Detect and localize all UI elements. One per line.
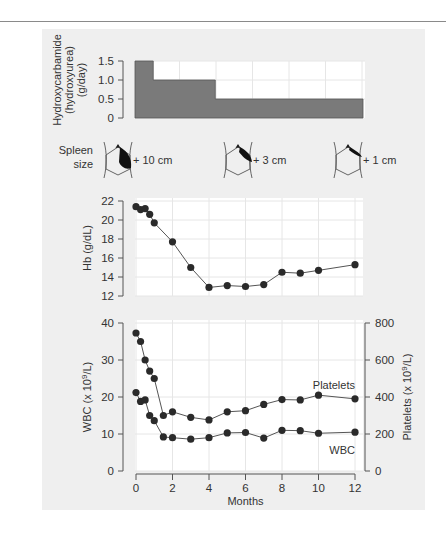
hb-data-point — [224, 282, 231, 289]
dose-y-tick-label: 1.0 — [98, 74, 114, 86]
hb-y-tick-label: 22 — [101, 195, 114, 207]
platelets-data-point — [315, 392, 322, 399]
spleen-size-value: + 1 cm — [363, 154, 396, 166]
spleen-size-value: + 3 cm — [253, 154, 286, 166]
wbc-data-point — [151, 417, 158, 424]
months-x-tick-label: 0 — [133, 482, 139, 494]
hb-data-point — [260, 281, 267, 288]
hb-data-point — [151, 219, 158, 226]
platelets-y-tick-label: 600 — [375, 354, 394, 366]
platelets-data-point — [297, 396, 304, 403]
wbc-data-point — [260, 434, 267, 441]
wbc-data-point — [315, 430, 322, 437]
hb-data-point — [297, 270, 304, 277]
wbc-data-point — [242, 429, 249, 436]
hb-y-tick-label: 20 — [101, 214, 114, 226]
months-x-tick-label: 12 — [349, 482, 362, 494]
months-x-tick-label: 4 — [206, 482, 213, 494]
platelets-data-point — [160, 412, 167, 419]
dose-y-tick-label: 0.5 — [98, 93, 114, 105]
months-x-tick-label: 6 — [242, 482, 248, 494]
platelets-data-point — [151, 375, 158, 382]
wbc-data-point — [169, 434, 176, 441]
spleen-diagram-icon — [104, 142, 132, 178]
hb-y-tick-label: 12 — [101, 290, 114, 302]
hb-plot-area — [135, 198, 363, 296]
hb-data-point — [205, 284, 212, 291]
platelets-y-tick-label: 800 — [375, 317, 394, 329]
wbc-data-point — [142, 396, 149, 403]
dose-y-tick-label: 0 — [108, 112, 114, 124]
platelets-series-label: Platelets — [313, 379, 356, 391]
wbc-data-point — [160, 433, 167, 440]
months-x-tick-label: 2 — [169, 482, 175, 494]
spleen-diagram-icon — [334, 142, 362, 178]
hb-data-point — [142, 205, 149, 212]
platelets-data-point — [187, 414, 194, 421]
platelets-data-point — [242, 407, 249, 414]
platelets-data-point — [260, 401, 267, 408]
dose-y-axis-title: Hydroxycarbamide — [51, 34, 63, 126]
wbc-y-tick-label: 40 — [101, 317, 114, 329]
platelets-data-point — [351, 395, 358, 402]
wbc-data-point — [187, 436, 194, 443]
figure-canvas: 00.51.01.5Hydroxycarbamide(hydroxyurea)(… — [0, 0, 446, 533]
hb-data-point — [242, 283, 249, 290]
hb-y-tick-label: 14 — [101, 271, 114, 283]
wbc-y-tick-label: 20 — [101, 391, 114, 403]
spleen-size-value: + 10 cm — [133, 154, 172, 166]
months-x-axis-title: Months — [227, 495, 264, 507]
wbc-data-point — [224, 429, 231, 436]
platelets-data-point — [169, 408, 176, 415]
spleen-size-label: size — [73, 158, 93, 170]
platelets-y-tick-label: 400 — [375, 391, 394, 403]
platelets-data-point — [224, 408, 231, 415]
platelets-y-tick-label: 200 — [375, 428, 394, 440]
wbc-data-point — [297, 427, 304, 434]
dose-y-axis-title: (g/day) — [75, 63, 87, 97]
hb-data-point — [278, 269, 285, 276]
wbc-data-point — [132, 389, 139, 396]
spleen-size-label: Spleen — [59, 144, 93, 156]
dose-y-tick-label: 1.5 — [98, 55, 114, 67]
dose-y-axis-title: (hydroxyurea) — [63, 46, 75, 114]
months-x-tick-label: 8 — [279, 482, 285, 494]
platelets-data-point — [142, 356, 149, 363]
platelets-y-tick-label: 0 — [375, 465, 381, 477]
wbc-data-point — [351, 429, 358, 436]
wbc-y-tick-label: 30 — [101, 354, 114, 366]
spleen-diagram-icon — [224, 142, 252, 178]
platelets-data-point — [146, 368, 153, 375]
hb-data-point — [169, 238, 176, 245]
hb-y-tick-label: 18 — [101, 233, 114, 245]
hb-data-point — [146, 211, 153, 218]
wbc-y-axis-title: WBC (x 109/L) — [80, 362, 94, 432]
platelets-data-point — [137, 338, 144, 345]
hb-y-tick-label: 16 — [101, 252, 114, 264]
wbc-y-tick-label: 0 — [108, 465, 114, 477]
hb-data-point — [315, 267, 322, 274]
hb-y-axis-title: Hb (g/dL) — [81, 225, 93, 271]
wbc-data-point — [278, 427, 285, 434]
months-x-tick-label: 10 — [312, 482, 325, 494]
wbc-series-label: WBC — [329, 444, 355, 456]
wbc-data-point — [205, 434, 212, 441]
platelets-data-point — [132, 329, 139, 336]
platelets-data-point — [278, 396, 285, 403]
platelets-y-axis-title: Platelets (x 109/L) — [400, 354, 414, 441]
hb-data-point — [187, 264, 194, 271]
platelets-data-point — [205, 416, 212, 423]
hb-data-point — [351, 261, 358, 268]
wbc-y-tick-label: 10 — [101, 428, 114, 440]
